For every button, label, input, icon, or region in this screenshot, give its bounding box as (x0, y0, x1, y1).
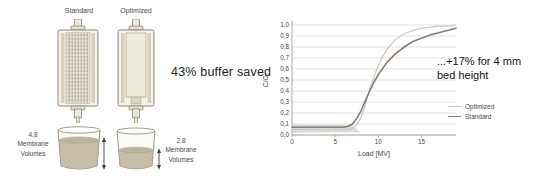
buffer-saved-callout: 43% buffer saved (171, 65, 271, 79)
svg-text:15: 15 (418, 138, 426, 145)
svg-text:0,7: 0,7 (280, 54, 289, 61)
optimized-column-label: Optimized (110, 7, 162, 14)
svg-text:0: 0 (290, 138, 294, 145)
svg-text:0,8: 0,8 (280, 43, 289, 50)
legend-item-optimized: Optimized (448, 103, 494, 110)
standard-volume-label: 4.8 Membrane Volumes (10, 130, 56, 158)
standard-column-label: Standard (53, 7, 105, 14)
svg-text:0,1: 0,1 (280, 120, 289, 127)
breakthrough-curve-chart: 0,00,10,20,30,40,50,60,70,80,91,0051015L… (258, 8, 463, 163)
standard-line-swatch (448, 116, 461, 118)
slide-figure: Standard Optimized (0, 0, 543, 176)
svg-text:5: 5 (333, 138, 337, 145)
standard-beaker-graphic (58, 127, 106, 170)
optimized-volume-value: 2.8 (158, 136, 204, 145)
svg-text:1,0: 1,0 (280, 21, 289, 28)
optimized-capsule-graphic (118, 19, 154, 123)
legend-item-standard: Standard (448, 113, 494, 120)
svg-text:0,3: 0,3 (280, 98, 289, 105)
optimized-line-swatch (448, 106, 461, 107)
svg-text:C/C₀: C/C₀ (262, 73, 269, 87)
svg-text:0,2: 0,2 (280, 109, 289, 116)
standard-capsule-graphic (58, 19, 98, 123)
chart-legend: Optimized Standard (448, 103, 494, 120)
standard-level-arrow (102, 137, 106, 170)
svg-text:0,6: 0,6 (280, 65, 289, 72)
svg-text:10: 10 (375, 138, 383, 145)
svg-text:0,9: 0,9 (280, 32, 289, 39)
svg-text:0,5: 0,5 (280, 76, 289, 83)
bed-height-annotation: ...+17% for 4 mm bed height (437, 54, 541, 83)
svg-text:Load [MV]: Load [MV] (358, 150, 390, 158)
optimized-volume-label: 2.8 Membrane Volumes (158, 136, 204, 164)
svg-text:0,4: 0,4 (280, 87, 289, 94)
svg-text:0,0: 0,0 (280, 131, 289, 138)
buffer-beaker-diagrams (50, 124, 170, 174)
standard-volume-value: 4.8 (10, 130, 56, 139)
membrane-capsule-diagrams (50, 19, 166, 123)
optimized-beaker-graphic (117, 128, 161, 170)
